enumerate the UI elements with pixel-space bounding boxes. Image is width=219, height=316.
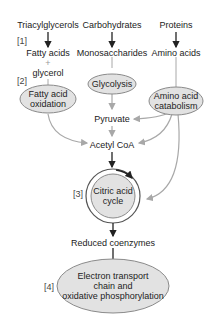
source-triacylglycerols: Triacylglycerols (12, 20, 84, 30)
pyruvate-label: Pyruvate (86, 114, 138, 124)
acetyl-coa-label: Acetyl CoA (84, 140, 140, 150)
plus-sign: + (18, 58, 78, 68)
step-label-4: [4] (44, 282, 54, 292)
amino-acid-catabolism-node: Amino acid catabolism (149, 88, 203, 114)
fatty-acid-oxidation-text-2: oxidation (28, 99, 67, 109)
electron-transport-chain-node: Electron transport chain and oxidative p… (60, 270, 166, 302)
etc-text-2: chain and (62, 281, 164, 291)
citric-acid-cycle-node: Citric acid cycle (91, 183, 135, 209)
fatty-acid-oxidation-node: Fatty acid oxidation (20, 86, 76, 112)
fatty-acids-label: Fatty acids (18, 48, 78, 58)
citric-acid-cycle-text-1: Citric acid (93, 186, 133, 196)
amino-acid-catabolism-text-2: catabolism (154, 101, 199, 111)
fatty-acid-oxidation-text-1: Fatty acid (28, 89, 67, 99)
glycolysis-node: Glycolysis (88, 74, 136, 94)
monosaccharides-label: Monosaccharides (76, 48, 148, 58)
source-proteins: Proteins (150, 20, 202, 30)
glycerol-label: glycerol (18, 68, 78, 78)
amino-acid-catabolism-text-1: Amino acid (154, 91, 199, 101)
etc-text-1: Electron transport (62, 271, 164, 281)
source-carbohydrates: Carbohydrates (80, 20, 144, 30)
etc-text-3: oxidative phosphorylation (62, 291, 164, 301)
amino-acids-label: Amino acids (146, 48, 206, 58)
reduced-coenzymes-label: Reduced coenzymes (68, 238, 158, 248)
step-label-3: [3] (73, 189, 83, 199)
step-label-1: [1] (17, 36, 27, 46)
citric-acid-cycle-text-2: cycle (93, 196, 133, 206)
